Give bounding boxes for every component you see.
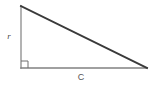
- triangle-figure-canvas: r C: [0, 0, 158, 85]
- horizontal-leg-label: C: [78, 72, 85, 82]
- right-triangle-diagram: r C: [0, 0, 158, 85]
- vertical-leg-label: r: [7, 31, 11, 41]
